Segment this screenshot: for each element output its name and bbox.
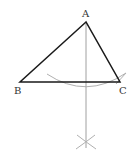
- label-c: C: [119, 85, 127, 96]
- geometry-diagram: A B C: [0, 0, 135, 157]
- label-a: A: [81, 8, 90, 19]
- triangle-abc: [20, 22, 120, 82]
- label-b: B: [14, 85, 21, 96]
